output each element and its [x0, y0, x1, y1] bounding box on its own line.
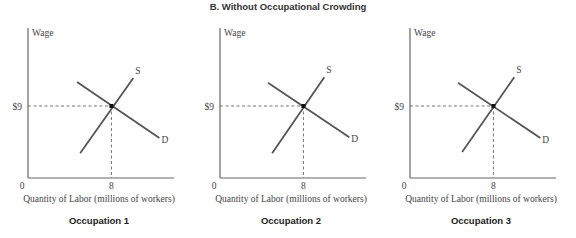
chart-3-supply-label: S [516, 65, 521, 75]
chart-2-supply-label: S [326, 65, 331, 75]
chart-3-demand-curve [458, 83, 540, 138]
chart-1-y-axis-label: Wage [32, 28, 53, 38]
chart-3-demand-label: D [542, 135, 549, 145]
charts-canvas: Wage$908DSQuantity of Labor (millions of… [0, 0, 576, 238]
chart-1-x-axis-label: Quantity of Labor (millions of workers) [23, 194, 175, 205]
chart-1-supply-label: S [135, 66, 140, 76]
chart-1-x-tick-label: 0 [20, 181, 25, 191]
chart-2-y-axis-label: Wage [224, 28, 245, 38]
chart-2-demand-label: D [351, 134, 358, 144]
chart-1-subtitle: Occupation 1 [69, 215, 130, 226]
chart-1-demand-label: D [161, 135, 168, 145]
chart-1-demand-curve [77, 82, 159, 138]
chart-1-equilibrium-point [109, 104, 113, 108]
chart-3-x-tick-label: 0 [402, 181, 407, 191]
chart-3-x-axis-label: Quantity of Labor (millions of workers) [405, 194, 557, 205]
chart-2-y-tick-label: $9 [205, 102, 215, 112]
chart-3-y-tick-label: $9 [395, 102, 405, 112]
chart-2-x-tick-label: 8 [301, 181, 306, 191]
chart-2-subtitle: Occupation 2 [261, 215, 321, 226]
chart-3-x-tick-label: 8 [491, 181, 496, 191]
chart-1-y-tick-label: $9 [13, 102, 23, 112]
chart-3-equilibrium-point [491, 104, 495, 108]
chart-2-x-tick-label: 0 [212, 181, 217, 191]
chart-3-subtitle: Occupation 3 [451, 215, 511, 226]
chart-2-demand-curve [268, 83, 349, 137]
chart-1-x-tick-label: 8 [109, 181, 114, 191]
chart-2-equilibrium-point [301, 104, 305, 108]
chart-2-x-axis-label: Quantity of Labor (millions of workers) [215, 194, 367, 205]
chart-3-y-axis-label: Wage [414, 28, 435, 38]
